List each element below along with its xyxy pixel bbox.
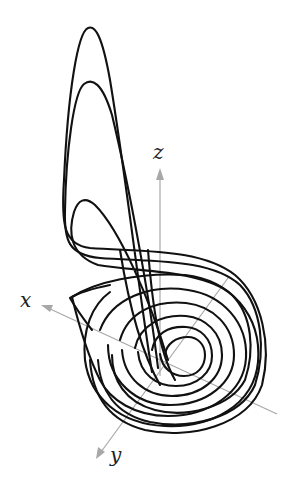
- spiral-ring-2: [72, 289, 246, 416]
- x-axis-label: x: [20, 290, 31, 310]
- spiral-ring-3: [108, 303, 234, 405]
- diagram-canvas: [0, 0, 295, 495]
- z-axis-arrowhead: [156, 168, 164, 180]
- z-axis-label: z: [153, 142, 164, 162]
- attractor-trajectory: [63, 28, 266, 433]
- x-axis-arrowhead: [41, 305, 53, 312]
- y-axis-label: y: [110, 445, 121, 465]
- trajectory-loop-outer: [63, 28, 266, 433]
- attractor-diagram: z x y: [0, 0, 295, 495]
